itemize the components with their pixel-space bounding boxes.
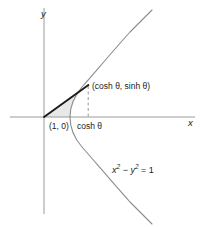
equation-minus-sign: − (120, 165, 130, 175)
vertex-label: (1, 0) (49, 122, 69, 131)
equation-rhs: = 1 (139, 165, 154, 175)
hyperbola-curve-upper (70, 10, 152, 117)
hyperbola-diagram: y x (cosh θ, sinh θ) (1, 0) cosh θ x2 − … (0, 0, 208, 227)
y-axis-label: y (41, 9, 46, 19)
diagram-canvas (0, 0, 208, 227)
cosh-base-label: cosh θ (77, 122, 102, 131)
hyperbola-equation-label: x2 − y2 = 1 (112, 166, 154, 175)
x-axis-label: x (188, 118, 193, 128)
point-coordinates-label: (cosh θ, sinh θ) (92, 82, 150, 91)
